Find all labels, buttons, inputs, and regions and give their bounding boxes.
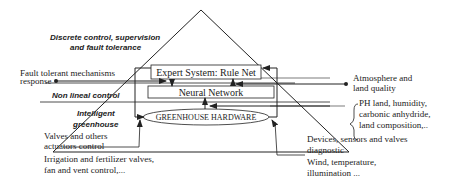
diagnostic-label: diagnostic (307, 145, 344, 155)
fan-vent-label: fan and vent control,... (44, 165, 125, 175)
devices-leader-arrow (272, 120, 275, 125)
illumination-label: illumination ... (307, 168, 360, 178)
devices-leader (275, 122, 305, 155)
land-composition-label: land composition,.. (359, 120, 428, 130)
expert-system-label: Expert System: Rule Net (156, 67, 256, 78)
devices-label: Devices, sensors and valves (307, 134, 408, 144)
neural-network-label: Neural Network (179, 87, 244, 98)
fault-response-label: response (20, 76, 52, 86)
land-quality-label: land quality (353, 83, 396, 93)
valves-label: Valves and others (44, 131, 108, 141)
wind-label: Wind, temperature, (307, 157, 376, 167)
layer-label-nonlineal: Non lineal control (52, 91, 120, 100)
atmosphere-label: Atmosphere and (353, 73, 413, 83)
layer-label-discrete: Discrete control, supervision (50, 33, 160, 42)
actuators-label: actuators control (44, 141, 105, 151)
layer-label-greenhouse: greenhouse (72, 120, 119, 129)
layer-label-discrete-2: and fault tolerance (70, 43, 142, 52)
carbonic-label: carbonic anhydride, (359, 109, 430, 119)
greenhouse-hardware-label: GREENHOUSE HARDWARE (156, 113, 257, 122)
greenhouse-control-diagram: Discrete control, supervision and fault … (0, 0, 449, 187)
ph-land-label: PH land, humidity, (359, 98, 427, 108)
layer-label-intelligent: Intelligent (77, 109, 115, 118)
irrigation-label: Irrigation and fertilizer valves, (44, 154, 154, 164)
